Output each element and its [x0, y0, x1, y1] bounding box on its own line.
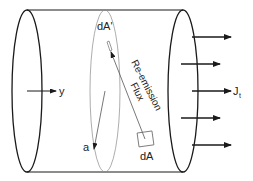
J-subscript-label: t [239, 92, 241, 99]
dA-prime-element: dA' [97, 20, 113, 51]
dA-element: dA [137, 131, 154, 162]
radius-arrow-line [94, 91, 105, 149]
y-axis-arrow: y [27, 85, 65, 97]
dA-prime-sliver-icon [107, 41, 112, 51]
dA-square [137, 131, 154, 147]
radius-arrow: a [83, 91, 105, 153]
transmitted-flux-label: J t [233, 85, 241, 99]
outflow-arrows [181, 37, 231, 145]
dA-prime-label: dA' [97, 20, 113, 32]
J-label: J [233, 85, 239, 97]
dA-label: dA [140, 150, 154, 162]
reemission-flux-diagram: y a dA' Re-emission Flux dA J t [0, 0, 253, 181]
radius-label: a [83, 141, 90, 153]
y-label: y [59, 85, 65, 97]
